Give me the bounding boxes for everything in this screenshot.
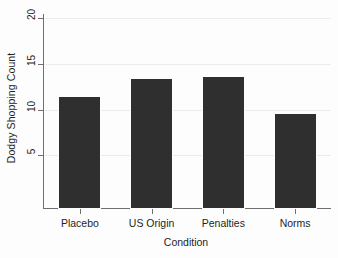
y-tick-label-text: 5 [27, 149, 38, 155]
y-axis-title-text: Dodgy Shopping Count [5, 52, 17, 163]
bar [59, 97, 100, 208]
y-tick-label-text: 15 [27, 55, 38, 66]
x-tick-mark [80, 209, 81, 214]
x-tick-mark [295, 209, 296, 214]
y-tick-label: 10 [22, 101, 42, 112]
y-axis-title: Dodgy Shopping Count [0, 0, 22, 215]
gridline [44, 18, 331, 19]
bar-chart-figure: Dodgy Shopping Count 5101520 PlaceboUS O… [0, 0, 338, 258]
y-tick-label-text: 10 [27, 100, 38, 111]
y-tick-label: 20 [22, 9, 42, 20]
bar [275, 114, 316, 208]
x-tick-mark [223, 209, 224, 214]
x-axis-title: Condition [40, 236, 332, 248]
x-tick-label: Norms [250, 217, 338, 229]
y-tick-label: 5 [22, 146, 42, 157]
y-tick-label-text: 20 [27, 9, 38, 20]
y-tick-label: 15 [22, 55, 42, 66]
bar [131, 79, 172, 208]
bar [203, 77, 244, 208]
plot-area [44, 14, 331, 209]
x-tick-mark [152, 209, 153, 214]
gridline [44, 64, 331, 65]
